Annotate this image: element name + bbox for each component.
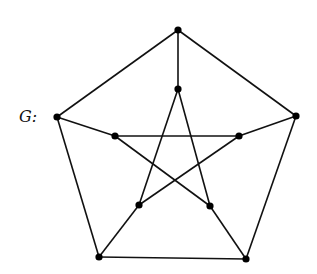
vertex-o3	[242, 255, 249, 262]
vertex-o5	[53, 113, 60, 120]
edge-i3-i5	[115, 136, 210, 206]
edge-i2-i4	[139, 136, 239, 205]
edges	[57, 30, 296, 259]
petersen-graph	[0, 0, 317, 274]
edge-o2-i2	[239, 116, 296, 136]
edge-o4-i4	[99, 205, 139, 257]
edge-o5-o1	[57, 30, 178, 117]
vertex-i3	[206, 202, 213, 209]
vertex-i1	[174, 85, 181, 92]
vertex-i2	[235, 132, 242, 139]
vertex-i4	[135, 201, 142, 208]
edge-o3-i3	[210, 206, 246, 259]
vertex-o4	[95, 253, 102, 260]
vertex-o2	[292, 112, 299, 119]
edge-o3-o4	[99, 257, 246, 259]
edge-o1-o2	[178, 30, 296, 116]
edge-i1-i3	[178, 89, 210, 206]
vertex-o1	[174, 26, 181, 33]
vertex-i5	[111, 132, 118, 139]
edge-o2-o3	[246, 116, 296, 259]
edge-i4-i1	[139, 89, 178, 205]
edge-o5-i5	[57, 117, 115, 136]
edge-o4-o5	[57, 117, 99, 257]
